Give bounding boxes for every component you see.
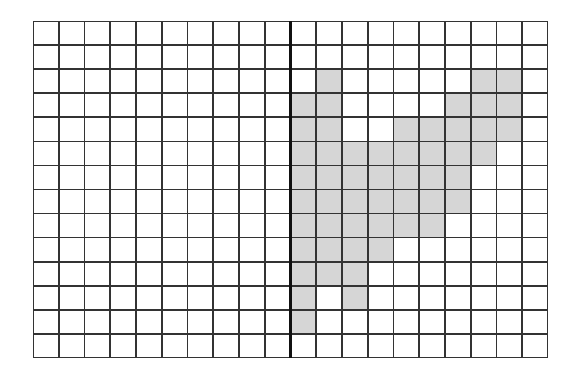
grid-cell-empty [85,238,111,262]
grid-cell-empty [239,117,265,141]
grid-cell-empty [419,334,445,358]
grid-cell-empty [162,117,188,141]
grid-cell-empty [471,45,497,69]
grid-cell-shaded [316,141,342,165]
grid-cell-shaded [342,238,368,262]
grid-cell-empty [110,334,136,358]
grid-cell-shaded [445,117,471,141]
grid-cell-empty [162,141,188,165]
grid-cell-empty [33,21,59,45]
grid-cell-empty [239,334,265,358]
grid-cell-empty [522,334,548,358]
grid-cell-empty [136,69,162,93]
grid-cell-shaded [445,190,471,214]
grid-cell-empty [110,286,136,310]
grid-cell-empty [188,69,214,93]
grid-cell-shaded [394,214,420,238]
grid-cell-empty [162,286,188,310]
grid-cell-empty [368,334,394,358]
grid-cell-empty [522,69,548,93]
grid-cell-empty [394,310,420,334]
grid-cell-shaded [291,117,317,141]
grid-cell-empty [445,214,471,238]
grid-cell-shaded [291,190,317,214]
grid-cell-empty [368,262,394,286]
grid-cell-empty [497,286,523,310]
grid-cell-shaded [497,93,523,117]
grid-cell-empty [188,165,214,189]
grid-cell-empty [59,117,85,141]
figure-canvas [0,0,570,377]
grid-cell-empty [394,69,420,93]
grid-cell-empty [59,21,85,45]
grid-cell-empty [497,45,523,69]
grid-cell-empty [85,69,111,93]
grid-cell-empty [394,262,420,286]
grid-cell-empty [188,117,214,141]
grid-cell-shaded [316,214,342,238]
grid-cell-empty [522,165,548,189]
grid-cell-empty [239,69,265,93]
grid-cell-empty [497,21,523,45]
grid-cell-empty [522,214,548,238]
grid-cell-shaded [419,214,445,238]
grid-cell-empty [265,262,291,286]
grid-cell-empty [136,214,162,238]
grid-cell-empty [265,69,291,93]
grid-cell-empty [136,93,162,117]
grid-cell-shaded [291,214,317,238]
grid-cell-empty [342,117,368,141]
grid-cell-empty [59,286,85,310]
grid-cell-empty [213,238,239,262]
grid-cell-empty [471,214,497,238]
grid-cell-empty [213,117,239,141]
grid-cell-empty [265,310,291,334]
grid-cell-empty [342,45,368,69]
grid-cell-shaded [471,141,497,165]
grid-cell-empty [162,262,188,286]
grid-cell-empty [59,165,85,189]
grid-cell-empty [445,45,471,69]
grid-cell-empty [59,238,85,262]
grid-cell-empty [33,141,59,165]
grid-cell-empty [394,21,420,45]
grid-cell-empty [497,141,523,165]
grid-cell-empty [33,45,59,69]
grid-cell-empty [265,190,291,214]
grid-cell-empty [239,238,265,262]
grid-cell-empty [316,334,342,358]
grid-cell-empty [110,238,136,262]
grid-cell-empty [110,45,136,69]
grid-cell-empty [33,69,59,93]
grid-cell-shaded [291,165,317,189]
grid-cell-empty [445,334,471,358]
grid-cell-empty [239,93,265,117]
grid-cell-empty [162,238,188,262]
grid-cell-empty [419,93,445,117]
grid-cell-empty [497,334,523,358]
grid-cell-empty [59,190,85,214]
grid-cell-empty [59,69,85,93]
grid-cell-shaded [394,141,420,165]
grid-cell-shaded [368,214,394,238]
grid-cell-empty [445,286,471,310]
grid-cell-empty [342,334,368,358]
grid-cell-empty [213,334,239,358]
grid-cell-empty [316,286,342,310]
grid-cell-empty [239,262,265,286]
grid-cell-empty [33,334,59,358]
grid-cell-empty [497,238,523,262]
grid-cell-empty [85,310,111,334]
grid-cell-empty [162,165,188,189]
grid-cell-empty [33,310,59,334]
grid-cell-empty [188,334,214,358]
grid-cell-empty [419,238,445,262]
grid-cell-empty [85,286,111,310]
grid-cell-shaded [291,286,317,310]
grid-cell-empty [188,262,214,286]
grid-cell-empty [394,286,420,310]
grid-cell-empty [85,214,111,238]
grid-cell-empty [419,310,445,334]
grid-cell-empty [445,21,471,45]
grid-cell-empty [136,238,162,262]
